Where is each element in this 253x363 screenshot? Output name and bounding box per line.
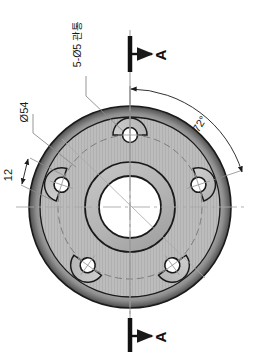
section-marker-top: A [130, 36, 169, 72]
bolt-circle-dim-label: Ø54 [18, 102, 30, 123]
pad-width-dim-line [22, 159, 28, 184]
flange-plan-view: A A 5-Ø5 관통 Ø54 12 [0, 0, 253, 363]
section-letter-bottom: A [152, 331, 169, 342]
pad-width-dim-label: 12 [2, 169, 14, 181]
section-marker-bottom: A [130, 318, 169, 352]
section-letter-top: A [152, 49, 169, 60]
engineering-drawing-canvas: A A 5-Ø5 관통 Ø54 12 [0, 0, 253, 363]
hole-note-label: 5-Ø5 관통 [71, 21, 83, 67]
